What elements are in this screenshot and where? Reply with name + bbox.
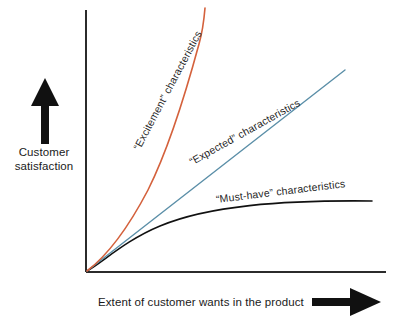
y-axis-title: Customer satisfaction: [8, 146, 80, 173]
must-have-curve: [87, 201, 372, 271]
x-axis-title: Extent of customer wants in the product: [98, 296, 304, 310]
up-arrow-icon: [31, 78, 59, 144]
kano-model-diagram: Customer satisfaction Extent of customer…: [0, 0, 399, 320]
expected-line: [87, 70, 345, 271]
right-arrow-icon: [312, 288, 381, 316]
